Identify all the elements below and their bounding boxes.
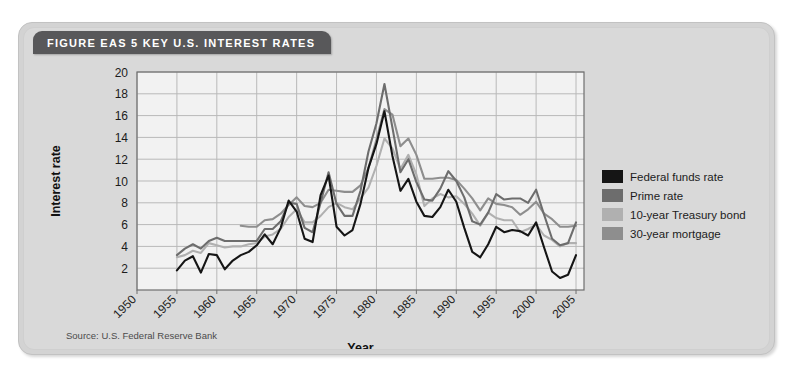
x-axis-tick-label: 1985 — [390, 292, 419, 321]
x-axis-tick-label: 2005 — [549, 292, 578, 321]
legend-swatch — [602, 189, 623, 202]
legend-swatch — [602, 208, 623, 221]
y-axis-title: Interest rate — [49, 145, 63, 217]
legend-label: Prime rate — [630, 190, 683, 202]
y-axis-tick-label: 20 — [115, 66, 129, 80]
y-axis-tick-label: 8 — [121, 196, 128, 210]
legend-label: 10-year Treasury bond — [630, 209, 746, 221]
legend-label: Federal funds rate — [630, 171, 723, 183]
x-axis-tick-label: 1970 — [270, 292, 299, 321]
x-axis-tick-label: 1990 — [430, 292, 459, 321]
y-axis-tick-label: 4 — [121, 240, 128, 254]
x-axis-tick-label: 1955 — [150, 292, 179, 321]
figure-card: FIGURE EAS 5 KEY U.S. INTEREST RATES 246… — [18, 22, 775, 355]
y-axis-tick-label: 6 — [121, 218, 128, 232]
legend-swatch — [602, 170, 623, 183]
chart-surface: 2468101214161820195019551960196519701975… — [24, 54, 769, 349]
y-axis-tick-label: 10 — [115, 175, 129, 189]
figure-inner-panel: FIGURE EAS 5 KEY U.S. INTEREST RATES 246… — [23, 27, 770, 350]
x-axis-tick-label: 1995 — [470, 292, 499, 321]
legend-label: 30-year mortgage — [630, 228, 721, 240]
y-axis-tick-label: 14 — [115, 131, 129, 145]
x-axis-tick-label: 2000 — [509, 292, 538, 321]
y-axis-tick-label: 16 — [115, 109, 129, 123]
x-axis-tick-label: 1975 — [310, 292, 339, 321]
legend-swatch — [602, 227, 623, 240]
interest-rates-line-chart: 2468101214161820195019551960196519701975… — [24, 54, 770, 350]
x-axis-tick-label: 1950 — [110, 292, 139, 321]
figure-title-bar: FIGURE EAS 5 KEY U.S. INTEREST RATES — [33, 31, 331, 54]
source-note: Source: U.S. Federal Reserve Bank — [66, 330, 217, 341]
x-axis-tick-label: 1965 — [230, 292, 259, 321]
y-axis-tick-label: 12 — [115, 153, 129, 167]
x-axis-title: Year — [347, 341, 374, 350]
figure-title: FIGURE EAS 5 KEY U.S. INTEREST RATES — [47, 37, 315, 49]
y-axis-tick-label: 18 — [115, 87, 129, 101]
y-axis-tick-label: 2 — [121, 262, 128, 276]
x-axis-tick-label: 1980 — [350, 292, 379, 321]
x-axis-tick-label: 1960 — [190, 292, 219, 321]
